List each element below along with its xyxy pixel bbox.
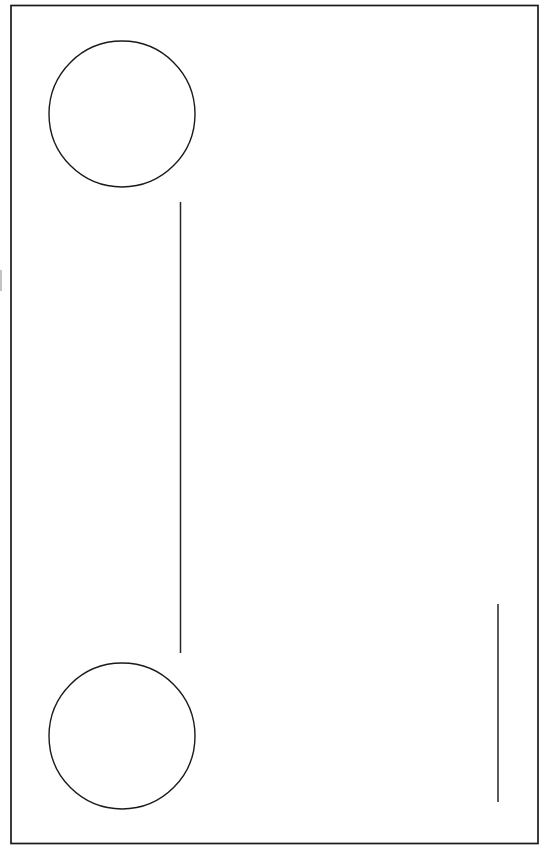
drawing-canvas: Untitled Line Drawing — [0, 0, 547, 852]
canvas-background — [0, 0, 547, 852]
drawing-surface — [0, 0, 547, 852]
